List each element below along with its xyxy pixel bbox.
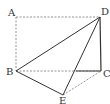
geometry-diagram: A D B C E <box>0 0 110 104</box>
label-B: B <box>6 66 13 77</box>
label-E: E <box>59 95 66 104</box>
segment-BE <box>16 71 63 95</box>
segment-DC <box>100 17 101 71</box>
label-D: D <box>101 6 109 17</box>
label-A: A <box>7 7 16 18</box>
label-C: C <box>103 68 110 79</box>
